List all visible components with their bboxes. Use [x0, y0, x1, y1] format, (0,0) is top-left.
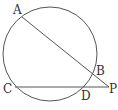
label-P: P [109, 82, 117, 96]
label-D: D [81, 89, 91, 103]
label-B: B [96, 64, 105, 78]
label-C: C [3, 82, 12, 96]
label-A: A [12, 3, 22, 17]
geometry-diagram: A B C D P [0, 0, 118, 110]
